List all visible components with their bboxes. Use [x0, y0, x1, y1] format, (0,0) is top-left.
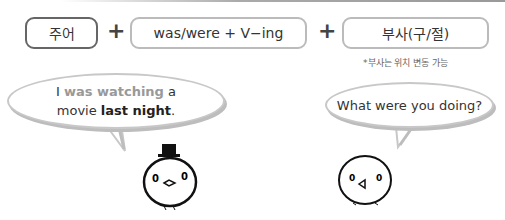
verb-box: was/were + V−ing — [130, 17, 307, 49]
character-icon: 0 0 — [335, 150, 405, 220]
svg-text:0: 0 — [376, 173, 382, 183]
bubble-text: What were you doing? — [337, 98, 482, 113]
bubble-text: movie — [57, 103, 101, 118]
subject-label: 주어 — [49, 23, 75, 43]
bubble-text: . — [171, 103, 175, 118]
svg-text:0: 0 — [181, 171, 188, 182]
adverb-box: 부사(구/절) — [342, 17, 489, 49]
highlight-verb: was watching — [64, 84, 164, 99]
svg-text:0: 0 — [152, 173, 159, 184]
highlight-adverb: last night — [101, 103, 171, 118]
character-with-hat-icon: 0 0 — [140, 140, 220, 220]
right-speech-bubble: What were you doing? — [325, 82, 494, 128]
left-speech-bubble: I was watching a movie last night. — [7, 73, 225, 129]
plus-sign-1: + — [107, 18, 125, 43]
adverb-note: *부사는 위치 변동 가능 — [363, 56, 448, 69]
subject-box: 주어 — [25, 17, 98, 49]
bubble-text: I — [56, 84, 64, 99]
adverb-label: 부사(구/절) — [382, 23, 450, 43]
bubble-text: a — [164, 84, 176, 99]
verb-label: was/were + V−ing — [154, 25, 284, 41]
plus-sign-2: + — [318, 18, 336, 43]
svg-text:0: 0 — [349, 173, 355, 183]
top-divider — [60, 0, 505, 2]
